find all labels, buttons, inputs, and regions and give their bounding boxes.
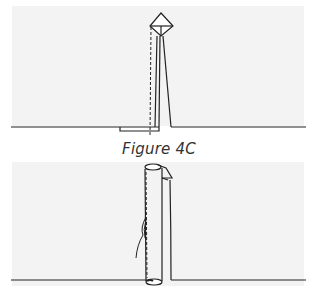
bottom-diagram bbox=[11, 164, 306, 285]
figure-caption: Figure 4C bbox=[0, 140, 318, 158]
top-diagram bbox=[11, 13, 306, 136]
